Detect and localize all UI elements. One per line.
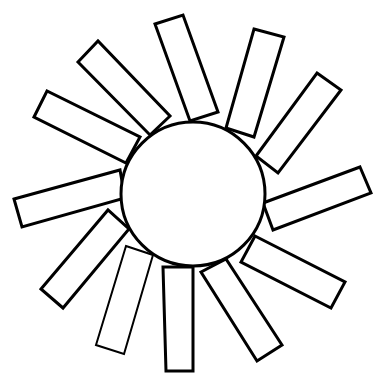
ray-bottom [163,267,193,371]
ray-top [155,15,218,121]
ray-top-right [226,29,284,137]
sun-circle [121,122,265,266]
sun-diagram [0,0,384,379]
ray-right [263,167,371,230]
ray-lower-right [241,236,345,308]
ray-bottom-left [96,246,153,354]
